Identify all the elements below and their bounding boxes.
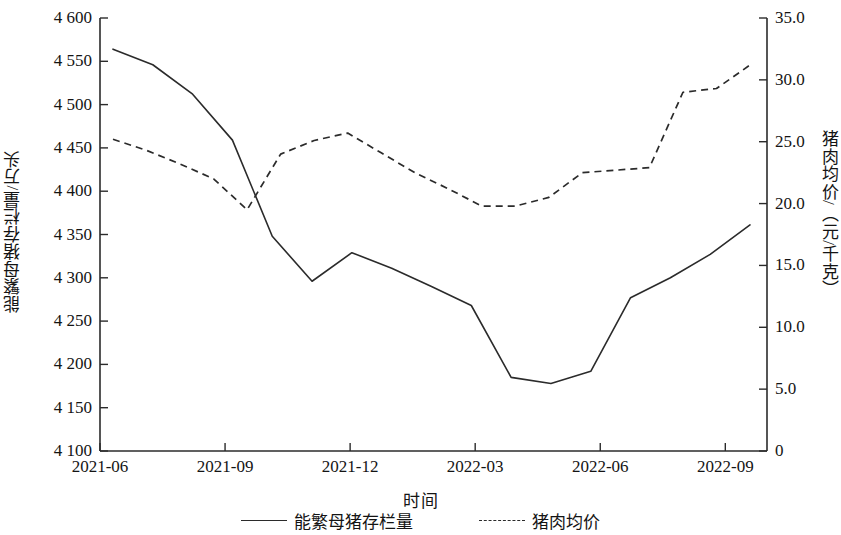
y-axis-right-tick-label: 20.0 — [775, 194, 805, 214]
plot-area — [0, 0, 841, 535]
legend-label: 能繁母猪存栏量 — [294, 508, 413, 533]
axes-lines — [100, 18, 767, 451]
x-axis-tick-label: 2021-09 — [197, 457, 254, 477]
y-axis-left-tick-label: 4 250 — [54, 311, 92, 331]
chart-legend: 能繁母猪存栏量猪肉均价 — [0, 508, 841, 533]
y-axis-right-tick-label: 5.0 — [775, 379, 796, 399]
y-axis-left-tick-label: 4 200 — [54, 354, 92, 374]
legend-solid-line-icon — [241, 520, 287, 521]
y-axis-right-tick-label: 35.0 — [775, 8, 805, 28]
y-axis-right-ticks — [759, 18, 767, 451]
y-axis-left-tick-label: 4 350 — [54, 225, 92, 245]
y-axis-left-tick-label: 4 300 — [54, 268, 92, 288]
chart-figure: 能繁母猪存栏量/万头 猪肉均价/（元/千克） 时间 4 6004 5504 50… — [0, 0, 841, 535]
y-axis-left-tick-label: 4 150 — [54, 398, 92, 418]
y-axis-left-tick-label: 4 550 — [54, 51, 92, 71]
x-axis-tick-label: 2022-03 — [447, 457, 504, 477]
x-axis-tick-label: 2021-12 — [322, 457, 379, 477]
y-axis-left-tick-label: 4 600 — [54, 8, 92, 28]
series-line-breeding-sow-inventory — [113, 49, 750, 383]
legend-entry: 猪肉均价 — [479, 508, 600, 533]
legend-label: 猪肉均价 — [532, 508, 600, 533]
y-axis-left-ticks — [100, 18, 108, 451]
legend-dashed-line-icon — [479, 520, 525, 521]
y-axis-right-tick-label: 30.0 — [775, 70, 805, 90]
x-axis-tick-label: 2021-06 — [72, 457, 129, 477]
legend-entry: 能繁母猪存栏量 — [241, 508, 413, 533]
series-line-pork-average-price — [113, 65, 750, 210]
y-axis-left-tick-label: 4 400 — [54, 181, 92, 201]
y-axis-right-tick-label: 10.0 — [775, 317, 805, 337]
y-axis-left-tick-label: 4 450 — [54, 138, 92, 158]
x-axis-ticks — [100, 443, 725, 451]
y-axis-right-tick-label: 25.0 — [775, 132, 805, 152]
x-axis-tick-label: 2022-09 — [697, 457, 754, 477]
y-axis-left-tick-label: 4 500 — [54, 95, 92, 115]
y-axis-right-tick-label: 0 — [775, 441, 784, 461]
y-axis-right-tick-label: 15.0 — [775, 255, 805, 275]
x-axis-tick-label: 2022-06 — [572, 457, 629, 477]
